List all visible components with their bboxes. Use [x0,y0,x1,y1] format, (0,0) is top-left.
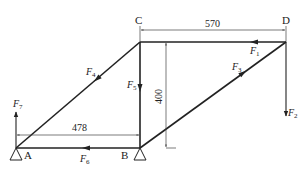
f1-arrowhead-icon [250,40,258,45]
force-label-f4: F4 [85,66,96,79]
external-forces [16,42,286,148]
node-label-d: D [282,14,290,26]
force-label-f6: F6 [79,153,90,166]
truss-diagram: A B C D 570 478 400 F1 F2 F3 F4 F5 F6 F7 [0,0,305,172]
f6-arrowhead-icon [82,146,90,151]
dim-label-478: 478 [72,122,87,133]
truss-members [16,42,286,148]
node-label-b: B [121,149,128,161]
force-label-f7: F7 [12,98,23,111]
support-b-icon [134,148,146,160]
dimension-lines [17,26,286,148]
force-label-f2: F2 [287,107,298,120]
force-label-f3: F3 [231,61,242,74]
node-label-a: A [24,149,32,161]
force-label-f1: F1 [249,45,260,58]
member-force-arrows [82,40,258,151]
force-label-f5: F5 [126,79,137,92]
support-a-icon [10,148,22,160]
dim-label-400: 400 [153,89,164,104]
node-label-c: C [135,14,142,26]
f5-arrowhead-icon [138,84,143,92]
dim-label-570: 570 [205,18,220,29]
